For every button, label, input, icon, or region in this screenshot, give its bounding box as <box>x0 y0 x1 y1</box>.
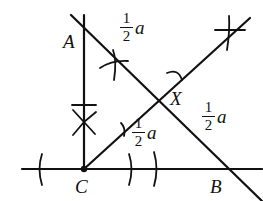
fraction-numerator: 1 <box>204 100 214 115</box>
fraction-ax: 1 2 <box>120 11 133 44</box>
fraction-numerator: 1 <box>122 11 132 26</box>
cross-arc-top-vertical <box>227 16 229 50</box>
fraction-variable: a <box>147 122 157 144</box>
fraction-variable: a <box>217 106 227 128</box>
fraction-denominator: 2 <box>122 29 132 44</box>
fraction-denominator: 2 <box>204 118 214 133</box>
median-line-cx <box>84 18 250 169</box>
point-label-b: B <box>210 177 222 196</box>
point-label-a: A <box>63 32 75 51</box>
hypotenuse-line-ab <box>71 15 262 201</box>
segment-label-xb: 1 2 a <box>202 100 227 133</box>
geometry-construction-diagram: A X C B 1 2 a 1 2 a 1 2 a <box>0 0 263 201</box>
point-label-x: X <box>170 89 182 108</box>
fraction-cx: 1 2 <box>132 116 145 149</box>
fraction-variable: a <box>135 17 145 39</box>
cross-arc-hyp-vertical <box>113 50 115 80</box>
segment-label-cx: 1 2 a <box>132 116 157 149</box>
point-c-dot <box>81 166 87 172</box>
fraction-xb: 1 2 <box>202 100 215 133</box>
arc-mark-near-x-upper <box>167 72 182 80</box>
segment-label-ax: 1 2 a <box>120 11 145 44</box>
fraction-denominator: 2 <box>134 134 144 149</box>
point-label-c: C <box>75 177 88 196</box>
fraction-numerator: 1 <box>134 116 144 131</box>
